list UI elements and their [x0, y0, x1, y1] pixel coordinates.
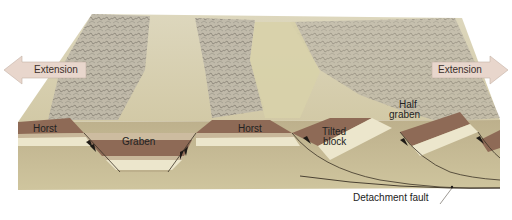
block-diagram: [0, 0, 512, 220]
tilted-block-label-line2: block: [323, 137, 346, 147]
extension-left-label: Extension: [34, 65, 78, 75]
detachment-fault-label: Detachment fault: [353, 193, 429, 203]
horst-center-label: Horst: [238, 124, 262, 134]
graben-label: Graben: [122, 137, 155, 147]
center-horst-cream: [196, 137, 300, 146]
land-surface: [18, 14, 500, 122]
left-horst-cream: [18, 137, 92, 146]
graben-tan: [102, 156, 184, 160]
detachment-leader: [440, 188, 452, 204]
half-graben-label-line2: graben: [389, 110, 420, 120]
horst-left-label: Horst: [33, 124, 57, 134]
extension-right-label: Extension: [438, 65, 482, 75]
detachment-point-icon: [451, 186, 453, 188]
